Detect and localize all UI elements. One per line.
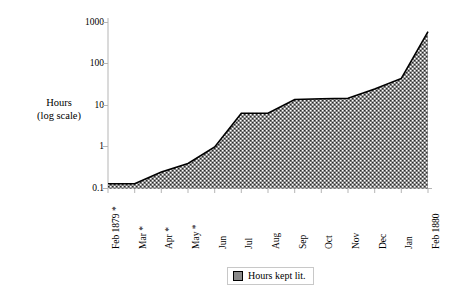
- legend-swatch-icon: [233, 271, 243, 281]
- x-tick-label-8: Oct: [325, 235, 335, 249]
- x-tick-label-11: Jan: [405, 236, 415, 249]
- x-tick-label-6: Aug: [272, 233, 282, 249]
- x-tick-label-7: Sep: [299, 235, 309, 249]
- x-tick-label-0: Feb 1879 *: [112, 206, 122, 249]
- chart-container: Hours (log scale) 1000 100 10 1 0.1: [0, 0, 473, 300]
- x-tick-label-9: Nov: [352, 233, 362, 249]
- x-tick-label-1: Mar *: [139, 226, 149, 249]
- x-axis-tick-labels: Feb 1879 *Mar *Apr *May *JunJulAugSepOct…: [0, 0, 473, 300]
- x-tick-label-12: Feb 1880: [432, 213, 442, 249]
- x-tick-label-3: May *: [192, 224, 202, 249]
- x-tick-label-5: Jul: [245, 238, 255, 249]
- x-tick-label-10: Dec: [379, 234, 389, 249]
- x-tick-label-2: Apr *: [165, 227, 175, 249]
- legend-label: Hours kept lit.: [248, 270, 306, 281]
- chart-legend[interactable]: Hours kept lit.: [227, 267, 314, 285]
- x-tick-label-4: Jun: [219, 236, 229, 249]
